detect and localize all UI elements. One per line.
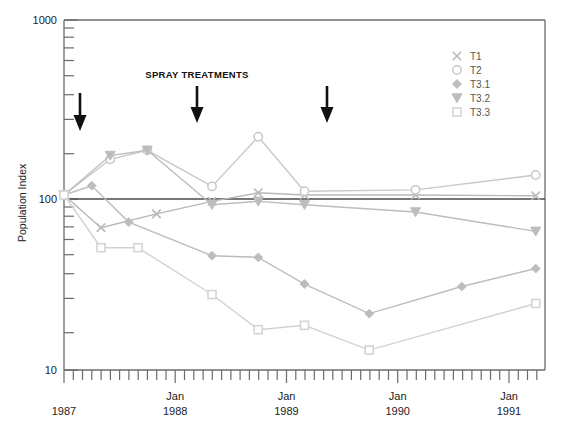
x-label-1987: 1987	[52, 405, 76, 417]
legend-marker-t3-3	[453, 108, 461, 116]
legend-label-t31: T3.1	[470, 79, 490, 90]
x-axis-ticks	[64, 370, 537, 383]
y-tick-label-10: 10	[45, 364, 57, 376]
data-point	[457, 282, 466, 291]
chart-container: 1000 100 10 Population Index	[0, 0, 572, 432]
legend-marker-t3-2	[452, 94, 462, 103]
spray-arrow-2	[191, 86, 204, 123]
x-label-jan-1989-top: Jan	[278, 390, 296, 402]
data-point	[254, 253, 263, 262]
spray-treatments-label: SPRAY TREATMENTS	[145, 69, 248, 80]
data-point	[97, 244, 105, 252]
y-axis-title: Population Index	[16, 163, 28, 242]
data-point	[301, 321, 309, 329]
series-t2	[60, 133, 540, 200]
data-point	[208, 291, 216, 299]
legend-label-t32: T3.2	[470, 93, 490, 104]
data-point	[208, 251, 217, 260]
y-tick-label-100: 100	[39, 193, 57, 205]
legend-marker-t3-1	[453, 80, 462, 89]
data-point	[254, 326, 262, 334]
x-label-1989: 1989	[274, 405, 298, 417]
data-point	[300, 280, 309, 289]
data-point	[411, 186, 419, 194]
data-point	[365, 309, 374, 318]
spray-arrow-3	[321, 86, 334, 123]
data-point	[97, 224, 105, 232]
series-layer	[59, 133, 541, 354]
x-label-1990: 1990	[385, 405, 409, 417]
data-point	[300, 187, 308, 195]
legend	[452, 52, 462, 116]
data-point	[365, 346, 373, 354]
legend-labels: T1 T2 T3.1 T3.2 T3.3	[470, 51, 490, 118]
data-point	[208, 182, 216, 190]
data-point	[254, 133, 262, 141]
data-point	[134, 244, 142, 252]
x-axis-category-labels: 1987 Jan 1988 Jan 1989 Jan 1990 Jan 1991	[52, 390, 521, 417]
y-tick-label-1000: 1000	[33, 14, 57, 26]
data-point	[532, 171, 540, 179]
series-t1	[60, 189, 540, 232]
data-point	[532, 299, 540, 307]
x-label-jan-1990-top: Jan	[389, 390, 407, 402]
legend-label-t1: T1	[470, 51, 482, 62]
series-line	[64, 137, 536, 195]
legend-marker-t2	[453, 66, 461, 74]
data-point	[531, 227, 541, 236]
series-t3-3	[60, 191, 540, 354]
population-index-line-chart: 1000 100 10 Population Index	[0, 0, 572, 432]
x-label-jan-1991-top: Jan	[500, 390, 518, 402]
legend-label-t2: T2	[470, 65, 482, 76]
x-label-1991: 1991	[497, 405, 521, 417]
legend-marker-t1	[453, 52, 461, 60]
x-label-1988: 1988	[163, 405, 187, 417]
data-point	[60, 191, 68, 199]
legend-label-t33: T3.3	[470, 107, 490, 118]
x-label-jan-1988-top: Jan	[166, 390, 184, 402]
data-point	[531, 264, 540, 273]
series-line	[64, 193, 536, 228]
spray-arrow-1	[74, 93, 87, 131]
